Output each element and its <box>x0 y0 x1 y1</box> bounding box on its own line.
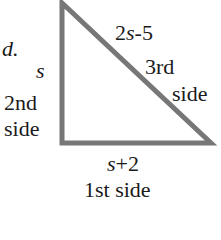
part-label: d. <box>2 38 19 60</box>
first-side-expression: s+2 <box>107 153 139 175</box>
second-side-name-line2: side <box>4 118 39 140</box>
third-side-name-line1: 3rd <box>145 56 174 78</box>
third-side-expression: 2s-5 <box>115 22 153 44</box>
third-side-name-line2: side <box>172 83 207 105</box>
second-side-name-line1: 2nd <box>4 92 37 114</box>
second-side-expression: s <box>36 60 45 82</box>
first-side-name: 1st side <box>84 179 151 201</box>
